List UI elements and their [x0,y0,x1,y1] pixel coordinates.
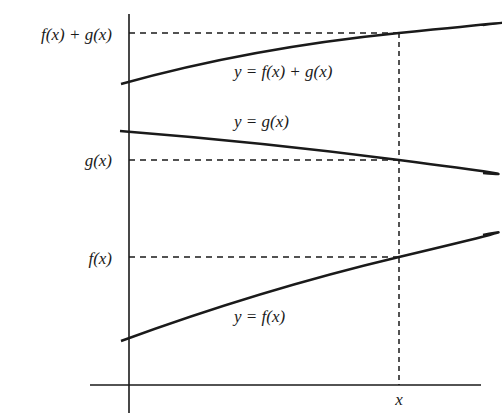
curve-f [121,232,499,341]
label-sum-left: f(x) + g(x) [41,25,112,44]
label-g-left: g(x) [85,151,113,170]
label-g-curve: y = g(x) [232,112,289,131]
label-f-left: f(x) [88,249,112,268]
label-f-curve: y = f(x) [232,307,285,326]
label-x-tick: x [394,390,403,409]
sum-of-functions-diagram: f(x) + g(x) g(x) f(x) y = f(x) + g(x) y … [0,0,502,419]
label-sum-curve: y = f(x) + g(x) [232,62,333,81]
curve-g [120,131,499,174]
